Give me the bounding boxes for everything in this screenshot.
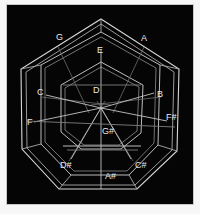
note-label-a: A <box>141 33 147 43</box>
chord-f-to-f-sharp <box>26 121 175 127</box>
spoke-d-sharp <box>71 108 101 159</box>
spoke-c <box>46 95 101 108</box>
note-label-d: D <box>93 85 100 95</box>
note-label-c-sharp: C# <box>135 160 147 170</box>
note-label-f: F <box>27 117 33 127</box>
note-label-c: C <box>37 87 44 97</box>
connector-bottom-left <box>59 175 71 189</box>
spoke-f-sharp <box>101 108 167 121</box>
note-label-f-sharp: F# <box>166 112 177 122</box>
connector-bottom-right <box>129 175 137 189</box>
figure-root: E A B F# C# G# A# D# F C D G <box>0 0 200 214</box>
spoke-b <box>101 93 154 108</box>
note-label-b: B <box>157 89 163 99</box>
heptagon-lattice-diagram: E A B F# C# G# A# D# F C D G <box>7 5 194 205</box>
plot-panel: E A B F# C# G# A# D# F C D G <box>6 4 194 205</box>
note-label-g: G <box>56 32 63 42</box>
centre-spokes <box>34 49 167 189</box>
spoke-f <box>34 108 101 122</box>
note-label-e: E <box>97 45 103 55</box>
note-label-a-sharp: A# <box>105 171 116 181</box>
strut-g-upper-left <box>58 47 89 113</box>
connector-lower-left <box>22 144 41 149</box>
note-label-g-sharp: G# <box>102 126 114 136</box>
note-label-d-sharp: D# <box>60 160 72 170</box>
connector-lower-right <box>158 145 177 151</box>
chord-lines <box>26 85 175 150</box>
